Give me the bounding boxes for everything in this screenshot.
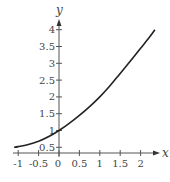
x-tick-label: 2: [137, 158, 143, 169]
x-tick-label: 0: [55, 158, 61, 169]
x-tick-label: -0.5: [29, 158, 48, 169]
y-tick-label: 4: [49, 24, 55, 35]
y-tick-label: 3.5: [39, 41, 55, 52]
x-axis-label: x: [162, 146, 169, 160]
x-tick-label: 0.5: [71, 158, 87, 169]
y-axis-arrow-icon: [57, 19, 62, 26]
x-tick-label: -1: [13, 158, 23, 169]
x-tick-label: 1.5: [112, 158, 128, 169]
y-tick-label: 2: [49, 91, 55, 102]
y-tick-label: 3: [49, 58, 55, 69]
line-chart: -1-0.500.511.52 0.511.522.533.54 x y: [0, 0, 170, 182]
y-tick-label: 2.5: [39, 75, 55, 86]
y-axis-label: y: [55, 3, 63, 17]
x-axis-arrow-icon: [153, 151, 160, 156]
data-curve: [14, 30, 155, 148]
x-tick-label: 1: [97, 158, 103, 169]
y-tick-label: 1.5: [39, 108, 55, 119]
y-tick-label: 0.5: [39, 142, 55, 153]
